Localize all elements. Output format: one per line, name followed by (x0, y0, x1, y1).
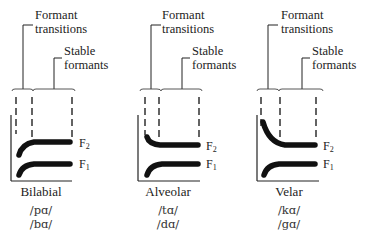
panel-bilabial: Formant transitions Stable formants F2 F… (0, 0, 122, 237)
stable-label-line2: formants (312, 59, 356, 72)
f2-label: F2 (79, 136, 90, 151)
transitions-label-line1: Formant (281, 9, 323, 22)
syllable-voiceless: /kɑ/ (278, 203, 300, 217)
transitions-label-line1: Formant (162, 9, 204, 22)
stable-label-line2: formants (192, 59, 236, 72)
syllable-voiced: /dɑ/ (157, 217, 179, 231)
f2-label: F2 (323, 139, 334, 154)
place-label-bilabial: Bilabial (20, 184, 61, 200)
place-label-alveolar: Alveolar (145, 184, 190, 200)
place-label-velar: Velar (275, 184, 302, 200)
stable-label-line1: Stable (64, 45, 95, 58)
stable-label-line1: Stable (312, 45, 343, 58)
transitions-label-line1: Formant (35, 9, 77, 22)
transitions-label-line2: transitions (35, 23, 87, 36)
transitions-label-line2: transitions (281, 23, 333, 36)
syllable-voiceless: /tɑ/ (158, 203, 178, 217)
syllable-voiced: /gɑ/ (278, 217, 300, 231)
panel-alveolar: Formant transitions Stable formants F2 F… (130, 0, 252, 237)
f2-label: F2 (206, 139, 217, 154)
stable-label-line1: Stable (192, 45, 223, 58)
syllable-voiceless: /pɑ/ (30, 203, 52, 217)
syllable-voiced: /bɑ/ (30, 217, 52, 231)
f1-label: F1 (323, 157, 334, 172)
f1-label: F1 (206, 157, 217, 172)
formant-transition-figure: Formant transitions Stable formants F2 F… (0, 0, 367, 237)
transitions-label-line2: transitions (162, 23, 214, 36)
f1-label: F1 (79, 157, 90, 172)
panel-velar: Formant transitions Stable formants F2 F… (245, 0, 367, 237)
stable-label-line2: formants (64, 59, 108, 72)
